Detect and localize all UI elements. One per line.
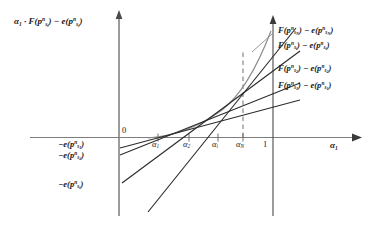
figure-container: α1 · F(pnsi) − e(pnsi) α1 0 1 α1 α2 αi α…: [0, 0, 389, 242]
legend-label-si: F(pnsi) − e(pnsi): [278, 41, 330, 52]
intercept-label-s2: −e(pns2): [58, 151, 84, 162]
legend-leader-lines: [252, 34, 272, 52]
tick-label-alphaN: αN: [236, 140, 244, 150]
y-axis-title-text: α1 · F(pnsi) − e(pnsi): [14, 16, 83, 26]
y-axis: [116, 10, 123, 216]
series-line-sN: [148, 28, 296, 212]
tick-label-alpha1: α1: [152, 140, 159, 150]
unit-vertical-axis: [270, 15, 277, 216]
legend-label-s2: F(pns2) − e(pns2): [278, 64, 331, 75]
x-axis-title: α1: [330, 141, 338, 151]
tick-label-unit: 1: [263, 140, 267, 149]
tick-label-alphai: αi: [212, 140, 218, 150]
series-upper-envelope-curve: [148, 31, 271, 138]
tick-label-alpha2: α2: [183, 140, 190, 150]
legend-label-s1: F(pns1) − e(pns1): [278, 81, 331, 92]
y-axis-title: α1 · F(pnsi) − e(pnsi): [14, 17, 83, 28]
legend-label-sN: F(pnsN) − e(pnsN): [278, 26, 333, 37]
intercept-label-si: −e(pnsi): [58, 180, 83, 191]
tick-label-origin: 0: [122, 126, 126, 135]
